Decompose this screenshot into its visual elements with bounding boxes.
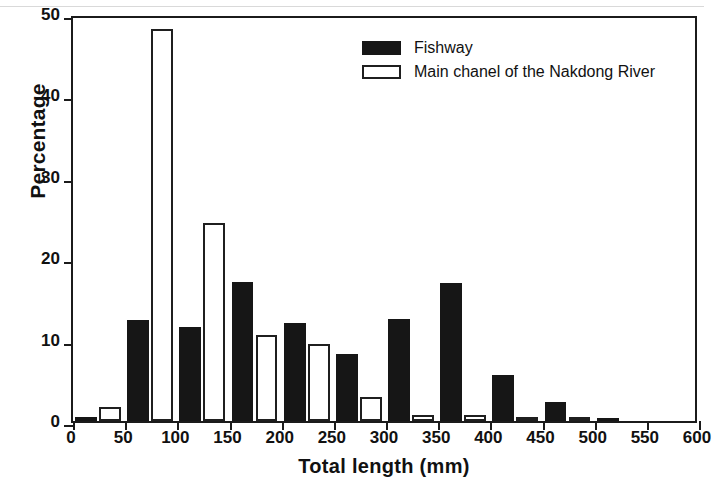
y-tick — [64, 344, 73, 346]
x-tick-label: 150 — [198, 428, 258, 448]
y-tick — [64, 18, 73, 20]
legend-swatch-main-channel-icon — [362, 65, 401, 79]
x-tick-label: 550 — [615, 428, 675, 448]
bar-fishway-0-50 — [75, 417, 97, 421]
x-tick-label: 350 — [406, 428, 466, 448]
bar-main-channel-100-150 — [203, 223, 225, 421]
bar-main-channel-200-250 — [308, 344, 330, 421]
x-tick-label: 0 — [41, 428, 101, 448]
legend-label-main-channel: Main chanel of the Nakdong River — [414, 63, 655, 81]
x-tick-label: 450 — [511, 428, 571, 448]
y-tick — [64, 181, 73, 183]
bar-fishway-300-350 — [388, 319, 410, 421]
bar-main-channel-400-450 — [516, 417, 538, 421]
y-tick-label: 40 — [14, 86, 60, 106]
y-tick — [64, 425, 73, 427]
legend-swatch-fishway-icon — [362, 41, 401, 55]
x-tick-label: 50 — [93, 428, 153, 448]
bar-fishway-500-550 — [597, 418, 619, 421]
y-tick-label: 10 — [14, 331, 60, 351]
y-tick-label: 50 — [14, 5, 60, 25]
chart-legend: Fishway Main chanel of the Nakdong River — [362, 38, 655, 86]
bar-fishway-350-400 — [440, 283, 462, 421]
y-tick-label: 20 — [14, 249, 60, 269]
x-axis-title: Total length (mm) — [71, 455, 697, 478]
bar-fishway-50-100 — [127, 320, 149, 421]
bar-fishway-250-300 — [336, 354, 358, 421]
bar-fishway-200-250 — [284, 323, 306, 421]
scan-top-rule — [0, 6, 704, 7]
bar-fishway-400-450 — [492, 375, 514, 421]
x-tick-label: 600 — [667, 428, 716, 448]
y-tick — [64, 99, 73, 101]
x-tick-label: 400 — [458, 428, 518, 448]
bar-main-channel-250-300 — [360, 397, 382, 421]
bar-main-channel-350-400 — [464, 415, 486, 422]
bar-main-channel-50-100 — [151, 29, 173, 421]
y-tick-label: 30 — [14, 168, 60, 188]
x-tick-label: 100 — [145, 428, 205, 448]
x-tick-label: 500 — [563, 428, 623, 448]
bar-main-channel-150-200 — [256, 335, 278, 421]
y-axis-title: Percentage — [26, 41, 50, 241]
legend-label-fishway: Fishway — [414, 39, 473, 57]
bar-main-channel-300-350 — [412, 415, 434, 421]
legend-item-fishway: Fishway — [362, 38, 655, 58]
bar-fishway-150-200 — [232, 282, 254, 421]
x-tick-label: 300 — [354, 428, 414, 448]
legend-item-main-channel: Main chanel of the Nakdong River — [362, 62, 655, 82]
y-tick — [64, 262, 73, 264]
bar-fishway-450-500 — [545, 402, 567, 421]
bar-fishway-100-150 — [179, 327, 201, 421]
x-tick-label: 200 — [250, 428, 310, 448]
bar-main-channel-450-500 — [569, 417, 591, 421]
bar-main-channel-0-50 — [99, 407, 121, 421]
x-tick-label: 250 — [302, 428, 362, 448]
